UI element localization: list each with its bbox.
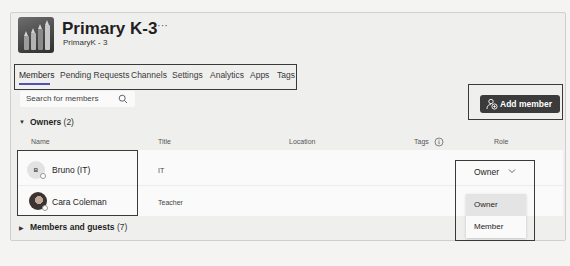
more-options-icon[interactable]: ··· [157,19,168,31]
add-person-icon [486,98,498,110]
tab-tags[interactable]: Tags [277,70,295,80]
add-member-label: Add member [500,99,552,109]
members-guests-section-header[interactable]: Members and guests (7) [30,222,127,232]
tab-channels[interactable]: Channels [131,70,167,80]
names-highlight-box [17,150,138,216]
team-logo [18,17,54,53]
search-icon[interactable] [118,94,128,104]
role-option-member[interactable]: Member [466,216,526,238]
role-option-owner[interactable]: Owner [466,194,526,216]
tab-apps[interactable]: Apps [250,70,269,80]
role-dropdown[interactable]: Owner [474,167,499,177]
owners-label: Owners [30,117,61,127]
member-title: IT [158,167,164,174]
column-header-role[interactable]: Role [494,138,508,145]
members-guests-count: (7) [117,222,127,232]
column-header-location[interactable]: Location [289,138,315,145]
owners-section-header[interactable]: Owners (2) [30,117,74,127]
column-header-name[interactable]: Name [31,138,50,145]
search-placeholder: Search for members [26,94,98,103]
role-dropdown-menu: Owner Member [466,194,526,238]
expand-caret-right-icon[interactable]: ▶ [19,224,24,231]
chevron-down-icon[interactable] [508,167,516,175]
members-guests-label: Members and guests [30,222,115,232]
add-member-button[interactable]: Add member [480,95,560,113]
tab-members[interactable]: Members [19,70,54,80]
column-header-tags[interactable]: Tags [414,138,429,145]
tab-pending-requests[interactable]: Pending Requests [60,70,129,80]
active-tab-indicator [19,83,50,85]
tab-settings[interactable]: Settings [172,70,203,80]
team-subtitle: PrimaryK - 3 [63,38,107,47]
member-title: Teacher [158,199,183,206]
team-title: Primary K-3 [62,19,157,39]
tab-analytics[interactable]: Analytics [210,70,244,80]
expand-caret-down-icon[interactable]: ▼ [19,119,25,125]
info-icon[interactable] [434,137,444,147]
owners-count: (2) [64,117,74,127]
column-header-title[interactable]: Title [158,138,171,145]
